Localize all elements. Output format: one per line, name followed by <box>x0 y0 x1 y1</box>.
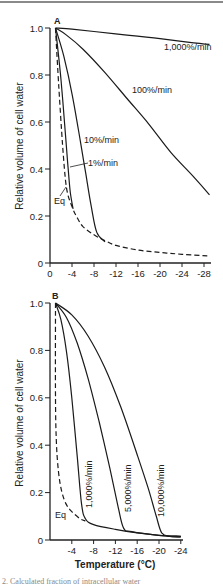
x-tick-label: -8 <box>89 545 97 556</box>
x-tick-label: -16 <box>131 268 145 279</box>
series-line-1min <box>56 28 74 209</box>
y-tick-label: 0.8 <box>30 70 43 81</box>
x-tick-label: -20 <box>153 268 167 279</box>
y-tick-label: 0.2 <box>30 487 43 498</box>
panel-b-x-axis-title: Temperature (°C) <box>75 559 156 570</box>
x-tick-label: -24 <box>174 545 188 556</box>
x-tick-label: -16 <box>130 545 144 556</box>
panel-b-label-5000: 5,000%/min <box>123 464 133 512</box>
x-tick-label: -12 <box>109 545 123 556</box>
series-line-100min <box>56 28 210 195</box>
figure-caption-partial: 2. Calculated fraction of intracellular … <box>2 577 140 586</box>
x-tick-label: -28 <box>197 268 211 279</box>
y-tick-label: 0.4 <box>30 440 43 451</box>
panel-b-letter: B <box>52 291 59 301</box>
panel-a-y-axis-label: Relative volume of cell water <box>14 82 25 210</box>
y-tick-label: 0.2 <box>30 211 43 222</box>
panel-a-pointer-1 <box>70 163 88 167</box>
y-tick-label: 0.6 <box>30 392 43 403</box>
panel-a-label-1000: 1,000%/min <box>164 42 212 52</box>
y-tick-label: 0.8 <box>30 345 43 356</box>
panel-a-label-eq: Eq <box>54 196 65 206</box>
panel-b-chart: B 1.00.80.60.40.20 -4-8-12-16-20-24 Rela… <box>14 291 188 570</box>
y-tick-label: 0 <box>38 258 43 269</box>
x-tick-label: -8 <box>90 268 98 279</box>
figure: A 1.00.80.60.40.20 0-4-8-12-16-20-24-28 … <box>0 0 223 586</box>
panel-a-x-ticks: 0-4-8-12-16-20-24-28 <box>47 263 211 279</box>
x-tick-label: -20 <box>152 545 166 556</box>
panel-a-letter: A <box>54 16 61 26</box>
x-tick-label: -4 <box>68 268 76 279</box>
panel-b-label-1000: 1,000%/min <box>84 460 94 508</box>
panel-a-label-1: 1%/min <box>88 158 118 168</box>
panel-a-chart: A 1.00.80.60.40.20 0-4-8-12-16-20-24-28 … <box>14 16 212 279</box>
x-tick-label: -12 <box>109 268 123 279</box>
panel-b-x-ticks: -4-8-12-16-20-24 <box>68 540 188 556</box>
panel-b-y-ticks: 1.00.80.60.40.20 <box>30 298 50 546</box>
panel-b-label-10000: 10,000%/min <box>156 464 166 517</box>
panel-b-y-axis-label: Relative volume of cell water <box>14 359 25 487</box>
panel-a-label-10: 10%/min <box>84 135 119 145</box>
panel-a-series <box>56 28 210 256</box>
panel-b-label-eq: Eq <box>55 510 66 520</box>
x-tick-label: -24 <box>175 268 189 279</box>
y-tick-label: 0 <box>38 535 43 546</box>
panel-a-pointer-eq <box>60 187 66 196</box>
x-tick-label: -4 <box>68 545 76 556</box>
panel-a-y-ticks: 1.00.80.60.40.20 <box>30 23 50 269</box>
x-tick-label: 0 <box>47 268 52 279</box>
series-line-eq <box>55 303 85 521</box>
panel-a-label-100: 100%/min <box>132 85 172 95</box>
y-tick-label: 0.6 <box>30 117 43 128</box>
y-tick-label: 0.4 <box>30 164 43 175</box>
y-tick-label: 1.0 <box>30 298 43 309</box>
series-line-eq <box>56 28 210 256</box>
y-tick-label: 1.0 <box>30 23 43 34</box>
